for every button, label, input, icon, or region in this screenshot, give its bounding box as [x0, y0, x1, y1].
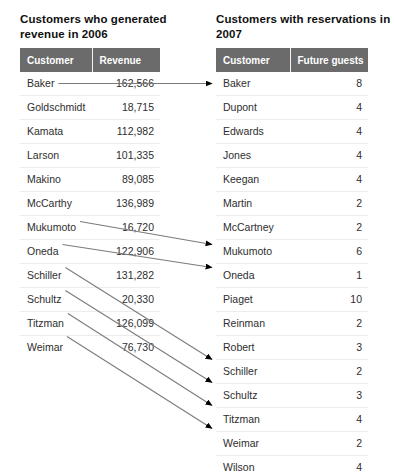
cell-customer: Titzman	[216, 408, 290, 432]
table-row[interactable]: Mukumoto 16,720	[20, 216, 160, 240]
cell-future-guests: 4	[290, 456, 368, 475]
table-row[interactable]: Schiller 2	[216, 360, 368, 384]
left-panel-title: Customers who generated revenue in 2006	[20, 12, 210, 42]
cell-future-guests: 1	[290, 264, 368, 288]
cell-customer: Mukumoto	[20, 216, 92, 240]
reservations-table-body: Baker 8 Dupont 4 Edwards 4 Jones 4 Keega…	[216, 72, 368, 475]
cell-customer: Schiller	[216, 360, 290, 384]
table-row[interactable]: Jones 4	[216, 144, 368, 168]
cell-future-guests: 4	[290, 408, 368, 432]
column-header-future-guests[interactable]: Future guests	[290, 48, 368, 72]
revenue-table: Customer Revenue Baker 162,566 Goldschmi…	[20, 48, 160, 359]
cell-future-guests: 2	[290, 312, 368, 336]
column-header-customer[interactable]: Customer	[216, 48, 290, 72]
cell-future-guests: 8	[290, 72, 368, 96]
cell-future-guests: 2	[290, 216, 368, 240]
cell-customer: Reinman	[216, 312, 290, 336]
cell-future-guests: 2	[290, 192, 368, 216]
cell-customer: Titzman	[20, 312, 92, 336]
table-row[interactable]: Schultz 3	[216, 384, 368, 408]
table-row[interactable]: Baker 162,566	[20, 72, 160, 96]
table-header-row: Customer Future guests	[216, 48, 368, 72]
table-row[interactable]: Weimar 2	[216, 432, 368, 456]
table-row[interactable]: Reinman 2	[216, 312, 368, 336]
cell-customer: Oneda	[216, 264, 290, 288]
table-row[interactable]: Kamata 112,982	[20, 120, 160, 144]
cell-customer: Baker	[20, 72, 92, 96]
cell-customer: Larson	[20, 144, 92, 168]
table-row[interactable]: Schiller 131,282	[20, 264, 160, 288]
cell-revenue: 18,715	[92, 96, 160, 120]
cell-customer: Keegan	[216, 168, 290, 192]
cell-customer: Goldschmidt	[20, 96, 92, 120]
cell-customer: Piaget	[216, 288, 290, 312]
revenue-table-body: Baker 162,566 Goldschmidt 18,715 Kamata …	[20, 72, 160, 359]
table-row[interactable]: Oneda 1	[216, 264, 368, 288]
cell-future-guests: 3	[290, 336, 368, 360]
cell-revenue: 16,720	[92, 216, 160, 240]
table-row[interactable]: Martin 2	[216, 192, 368, 216]
table-row[interactable]: Weimar 76,730	[20, 336, 160, 360]
table-row[interactable]: Makino 89,085	[20, 168, 160, 192]
table-row[interactable]: Dupont 4	[216, 96, 368, 120]
cell-revenue: 136,989	[92, 192, 160, 216]
table-row[interactable]: Titzman 4	[216, 408, 368, 432]
cell-customer: Weimar	[20, 336, 92, 360]
cell-future-guests: 4	[290, 168, 368, 192]
cell-customer: Kamata	[20, 120, 92, 144]
cell-revenue: 20,330	[92, 288, 160, 312]
cell-future-guests: 6	[290, 240, 368, 264]
cell-future-guests: 4	[290, 96, 368, 120]
reservations-table: Customer Future guests Baker 8 Dupont 4 …	[216, 48, 368, 475]
cell-customer: Weimar	[216, 432, 290, 456]
table-header-row: Customer Revenue	[20, 48, 160, 72]
cell-revenue: 122,906	[92, 240, 160, 264]
table-row[interactable]: Keegan 4	[216, 168, 368, 192]
cell-customer: Schultz	[216, 384, 290, 408]
table-row[interactable]: Titzman 126,099	[20, 312, 160, 336]
right-panel-title: Customers with reservations in 2007	[216, 12, 394, 42]
cell-customer: Schiller	[20, 264, 92, 288]
cell-revenue: 162,566	[92, 72, 160, 96]
table-row[interactable]: Robert 3	[216, 336, 368, 360]
cell-revenue: 131,282	[92, 264, 160, 288]
cell-revenue: 101,335	[92, 144, 160, 168]
cell-future-guests: 2	[290, 432, 368, 456]
cell-customer: Mukumoto	[216, 240, 290, 264]
cell-customer: McCartney	[216, 216, 290, 240]
table-row[interactable]: McCartney 2	[216, 216, 368, 240]
cell-customer: McCarthy	[20, 192, 92, 216]
cell-customer: Baker	[216, 72, 290, 96]
table-row[interactable]: Wilson 4	[216, 456, 368, 475]
table-row[interactable]: Goldschmidt 18,715	[20, 96, 160, 120]
cell-future-guests: 10	[290, 288, 368, 312]
cell-future-guests: 3	[290, 384, 368, 408]
table-row[interactable]: Baker 8	[216, 72, 368, 96]
column-header-revenue[interactable]: Revenue	[92, 48, 160, 72]
cell-revenue: 76,730	[92, 336, 160, 360]
cell-customer: Martin	[216, 192, 290, 216]
cell-customer: Dupont	[216, 96, 290, 120]
table-row[interactable]: McCarthy 136,989	[20, 192, 160, 216]
table-row[interactable]: Larson 101,335	[20, 144, 160, 168]
cell-future-guests: 4	[290, 120, 368, 144]
table-row[interactable]: Mukumoto 6	[216, 240, 368, 264]
cell-customer: Wilson	[216, 456, 290, 475]
table-row[interactable]: Edwards 4	[216, 120, 368, 144]
cell-customer: Makino	[20, 168, 92, 192]
cell-customer: Schultz	[20, 288, 92, 312]
table-row[interactable]: Piaget 10	[216, 288, 368, 312]
cell-revenue: 89,085	[92, 168, 160, 192]
cell-future-guests: 2	[290, 360, 368, 384]
table-row[interactable]: Oneda 122,906	[20, 240, 160, 264]
cell-customer: Jones	[216, 144, 290, 168]
cell-customer: Edwards	[216, 120, 290, 144]
column-header-customer[interactable]: Customer	[20, 48, 92, 72]
table-row[interactable]: Schultz 20,330	[20, 288, 160, 312]
cell-future-guests: 4	[290, 144, 368, 168]
cell-revenue: 112,982	[92, 120, 160, 144]
cell-customer: Robert	[216, 336, 290, 360]
cell-revenue: 126,099	[92, 312, 160, 336]
cell-customer: Oneda	[20, 240, 92, 264]
